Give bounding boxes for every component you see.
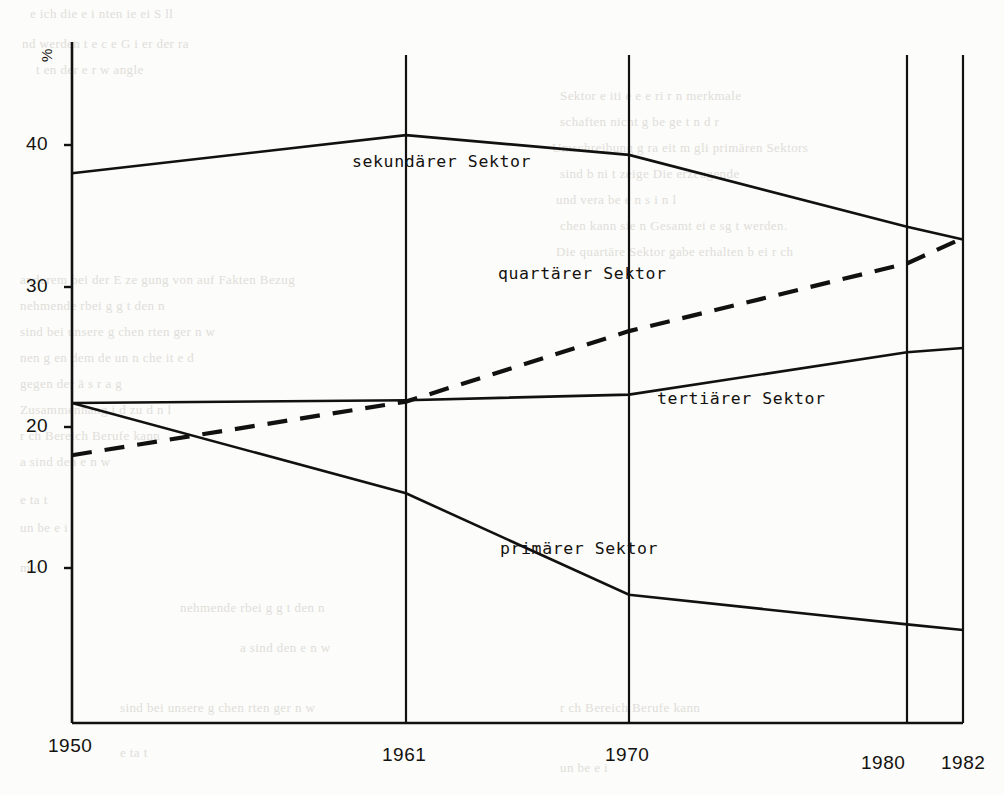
series-label-quartaerer-sektor: quartärer Sektor bbox=[498, 264, 667, 283]
x-tick-label-1961: 1961 bbox=[382, 744, 426, 766]
series-label-tertiaerer-sektor: tertiärer Sektor bbox=[657, 389, 826, 408]
series-label-primaerer-sektor: primärer Sektor bbox=[500, 539, 658, 558]
y-tick-label-40: 40 bbox=[26, 133, 48, 155]
series-line-primaerer-sektor bbox=[72, 403, 963, 630]
series-line-sekundaerer-sektor bbox=[72, 135, 963, 239]
y-axis-unit-label: % bbox=[38, 49, 55, 62]
series-label-sekundaerer-sektor: sekundärer Sektor bbox=[352, 152, 531, 171]
x-tick-label-1982: 1982 bbox=[941, 752, 985, 774]
y-tick-label-10: 10 bbox=[26, 556, 48, 578]
y-tick-label-30: 30 bbox=[26, 275, 48, 297]
x-tick-label-1970: 1970 bbox=[605, 744, 649, 766]
sector-share-line-chart bbox=[0, 0, 1004, 795]
y-tick-label-20: 20 bbox=[26, 415, 48, 437]
scanned-page: e ich die e i nten ie ei S ll nd werden … bbox=[0, 0, 1004, 795]
x-tick-label-1950: 1950 bbox=[48, 735, 92, 757]
series-line-tertiaerer-sektor bbox=[72, 348, 963, 403]
x-tick-label-1980: 1980 bbox=[861, 752, 905, 774]
